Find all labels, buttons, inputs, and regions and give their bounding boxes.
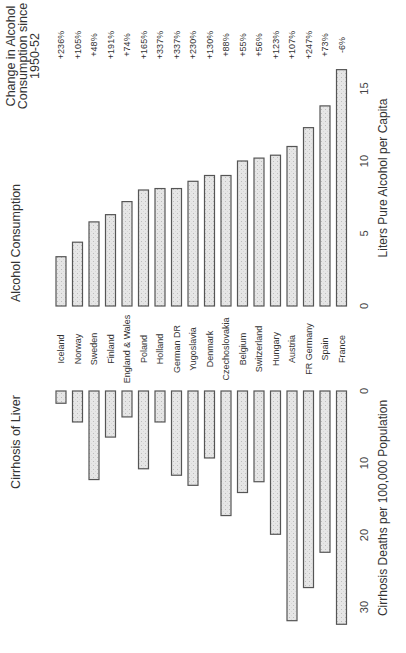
consumption-axis-ticks: 051015 (358, 82, 370, 309)
pct-change-poland: +165% (139, 31, 149, 59)
pct-change-norway: +105% (73, 31, 83, 59)
country-label-spain: Spain (320, 337, 330, 360)
country-label-iceland: Iceland (56, 334, 66, 363)
cirrhosis-axis-title: Cirrhosis Deaths per 100,000 Population (376, 400, 390, 616)
cirrhosis-bar-german-dr (172, 391, 182, 475)
consumption-bar-german-dr (172, 189, 182, 306)
cirrhosis-axis-ticks: 0102030 (358, 388, 370, 613)
cirrhosis-bar-yugoslavia (188, 391, 198, 485)
cirrhosis-bar-spain (320, 391, 330, 552)
chart-canvas: Change in Alcohol Consumption since 1950… (0, 0, 406, 653)
consumption-axis-title: Liters Pure Alcohol per Capita (376, 98, 390, 257)
country-label-england-wales: England & Wales (122, 314, 132, 383)
cirrhosis-bar-czechoslovakia (221, 391, 231, 516)
cirrhosis-tick-30: 30 (358, 601, 370, 613)
pct-change-spain: +73% (320, 33, 330, 56)
pct-change-holland: +337% (155, 31, 165, 59)
pct-change-england-wales: +74% (122, 33, 132, 56)
consumption-bar-denmark (205, 176, 215, 307)
pct-change-denmark: +130% (205, 31, 215, 59)
cirrhosis-bar-austria (287, 391, 297, 621)
pct-change-sweden: +48% (89, 33, 99, 56)
consumption-tick-0: 0 (358, 303, 370, 309)
country-label-france: France (337, 335, 347, 363)
country-label-yugoslavia: Yugoslavia (188, 327, 198, 371)
cirrhosis-tick-10: 10 (358, 457, 370, 469)
consumption-bar-yugoslavia (188, 181, 198, 306)
cirrhosis-bar-holland (155, 391, 165, 422)
consumption-bar-hungary (271, 155, 281, 306)
country-label-switzerland: Switzerland (254, 326, 264, 373)
cirrhosis-bar-fr-germany (304, 391, 314, 588)
country-label-german-dr: German DR (172, 324, 182, 373)
country-label-poland: Poland (139, 335, 149, 363)
consumption-bar-finland (106, 215, 116, 306)
consumption-bar-spain (320, 106, 330, 306)
cirrhosis-bar-sweden (89, 391, 99, 480)
pct-change-iceland: +236% (56, 31, 66, 59)
pct-change-hungary: +123% (271, 31, 281, 59)
consumption-bar-switzerland (254, 158, 264, 306)
country-label-fr-germany: FR Germany (304, 323, 314, 375)
cirrhosis-bars (56, 391, 347, 624)
consumption-bar-poland (139, 190, 149, 306)
pct-change-austria: +107% (287, 31, 297, 59)
country-label-czechoslovakia: Czechoslovakia (221, 317, 231, 380)
consumption-bars (56, 70, 347, 306)
country-label-belgium: Belgium (238, 333, 248, 366)
consumption-bar-holland (155, 189, 165, 306)
pct-change-czechoslovakia: +88% (221, 33, 231, 56)
pct-change-labels: +236%+105%+48%+191%+74%+165%+337%+337%+2… (56, 31, 347, 59)
country-label-denmark: Denmark (205, 330, 215, 367)
cirrhosis-bar-belgium (238, 391, 248, 493)
cirrhosis-bar-hungary (271, 391, 281, 534)
change-header: Change in Alcohol Consumption since 1950… (4, 3, 42, 109)
cirrhosis-bar-norway (73, 391, 83, 422)
pct-change-switzerland: +56% (254, 33, 264, 56)
consumption-bar-iceland (56, 257, 66, 306)
pct-change-german-dr: +337% (172, 31, 182, 59)
pct-change-france: -6% (337, 37, 347, 53)
country-label-hungary: Hungary (271, 331, 281, 366)
consumption-bar-czechoslovakia (221, 176, 231, 307)
cirrhosis-bar-france (337, 391, 347, 624)
consumption-bar-england-wales (122, 202, 132, 306)
pct-change-finland: +191% (106, 31, 116, 59)
cirrhosis-bar-iceland (56, 391, 66, 403)
consumption-bar-belgium (238, 161, 248, 306)
consumption-tick-5: 5 (358, 230, 370, 236)
cirrhosis-bar-switzerland (254, 391, 264, 482)
country-label-holland: Holland (155, 334, 165, 365)
cirrhosis-tick-0: 0 (358, 388, 370, 394)
consumption-bar-fr-germany (304, 128, 314, 306)
consumption-bar-france (337, 70, 347, 306)
country-labels: IcelandNorwaySwedenFinlandEngland & Wale… (56, 314, 347, 383)
consumption-bar-sweden (89, 222, 99, 306)
pct-change-belgium: +55% (238, 33, 248, 56)
cirrhosis-section-title: Cirrhosis of Liver (9, 395, 23, 489)
consumption-tick-10: 10 (358, 155, 370, 167)
consumption-tick-15: 15 (358, 82, 370, 94)
country-label-sweden: Sweden (89, 333, 99, 366)
cirrhosis-tick-20: 20 (358, 529, 370, 541)
country-label-austria: Austria (287, 335, 297, 363)
consumption-section-title: Alcohol Consumption (9, 184, 23, 302)
cirrhosis-bar-finland (106, 391, 116, 437)
country-label-finland: Finland (106, 334, 116, 364)
consumption-bar-norway (73, 242, 83, 306)
pct-change-fr-germany: +247% (304, 31, 314, 59)
change-header-line-3: 1950-52 (28, 33, 42, 79)
cirrhosis-bar-denmark (205, 391, 215, 458)
pct-change-yugoslavia: +230% (188, 31, 198, 59)
country-label-norway: Norway (73, 333, 83, 364)
consumption-bar-austria (287, 147, 297, 307)
cirrhosis-bar-poland (139, 391, 149, 469)
cirrhosis-bar-england-wales (122, 391, 132, 417)
